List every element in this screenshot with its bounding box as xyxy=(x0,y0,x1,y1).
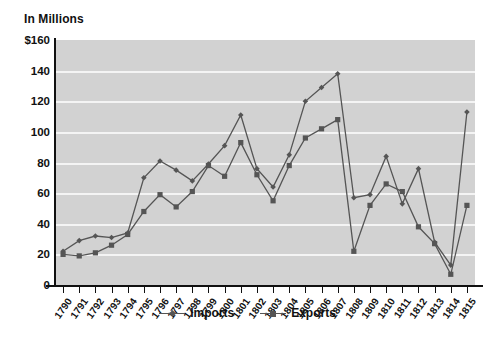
x-axis-tick xyxy=(225,287,226,293)
x-axis-tick xyxy=(257,287,258,293)
x-axis-tick xyxy=(63,287,64,293)
x-axis-tick xyxy=(370,287,371,293)
y-axis-tick-label: 120 xyxy=(2,95,50,107)
x-axis-tick xyxy=(354,287,355,293)
y-axis-tick-label: 80 xyxy=(2,157,50,169)
legend-marker-square-icon xyxy=(260,309,286,318)
legend-marker-diamond-icon xyxy=(159,309,185,318)
y-axis-tick-label: 20 xyxy=(2,248,50,260)
gridline xyxy=(55,224,475,226)
gridline xyxy=(55,101,475,103)
x-axis-tick xyxy=(418,287,419,293)
x-axis-tick xyxy=(289,287,290,293)
y-axis-tick-label: 140 xyxy=(2,65,50,77)
chart-legend: ImportsExports xyxy=(0,306,495,320)
gridline xyxy=(55,132,475,134)
x-axis-tick xyxy=(435,287,436,293)
x-axis-tick xyxy=(79,287,80,293)
gridline xyxy=(55,163,475,165)
x-axis-tick xyxy=(128,287,129,293)
gridline xyxy=(55,193,475,195)
gridline xyxy=(55,254,475,256)
legend-label: Imports xyxy=(190,306,234,320)
y-axis-tick-label: 0 xyxy=(2,279,50,291)
x-axis-tick xyxy=(467,287,468,293)
x-axis-tick xyxy=(95,287,96,293)
x-axis-tick xyxy=(112,287,113,293)
x-axis-tick xyxy=(241,287,242,293)
y-axis-tick-label: 60 xyxy=(2,187,50,199)
x-axis-tick xyxy=(305,287,306,293)
x-axis-tick xyxy=(338,287,339,293)
chart-container: In Millions $160140120100806040200 17901… xyxy=(0,0,495,341)
x-axis-tick xyxy=(208,287,209,293)
y-axis-tick-label: 100 xyxy=(2,126,50,138)
x-axis-tick xyxy=(386,287,387,293)
x-axis-tick xyxy=(192,287,193,293)
x-axis-tick xyxy=(144,287,145,293)
x-axis-tick xyxy=(160,287,161,293)
y-axis-tick-label: $160 xyxy=(2,34,50,46)
legend-item-imports[interactable]: Imports xyxy=(159,306,234,320)
x-axis-tick xyxy=(176,287,177,293)
y-axis-labels: $160140120100806040200 xyxy=(0,0,50,341)
x-axis-tick xyxy=(273,287,274,293)
legend-item-exports[interactable]: Exports xyxy=(260,306,336,320)
gridline xyxy=(55,71,475,73)
legend-label: Exports xyxy=(291,306,336,320)
x-axis-tick xyxy=(402,287,403,293)
y-axis-tick-label: 40 xyxy=(2,218,50,230)
x-axis-tick xyxy=(322,287,323,293)
y-axis-line xyxy=(54,38,56,287)
x-axis-tick xyxy=(451,287,452,293)
plot-area xyxy=(55,40,475,285)
